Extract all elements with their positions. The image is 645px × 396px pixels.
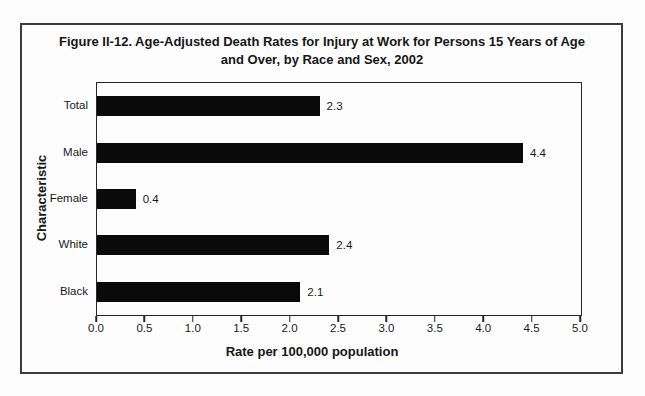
category-label: Male <box>16 146 88 158</box>
x-tick-mark <box>386 316 388 322</box>
bar <box>97 282 300 302</box>
bar-value-label: 0.4 <box>143 193 159 205</box>
bar-value-label: 2.4 <box>336 239 352 251</box>
chart-title: Figure II-12. Age-Adjusted Death Rates f… <box>52 33 592 69</box>
bar <box>97 189 136 209</box>
page: Figure II-12. Age-Adjusted Death Rates f… <box>0 0 645 396</box>
bar-value-label: 2.3 <box>327 100 343 112</box>
category-label: Black <box>16 285 88 297</box>
x-axis-label: Rate per 100,000 population <box>226 344 399 359</box>
x-tick-mark <box>531 316 533 322</box>
bar-value-label: 2.1 <box>307 286 323 298</box>
x-tick-mark <box>579 316 581 322</box>
x-tick-mark <box>482 316 484 322</box>
x-tick-mark <box>240 316 242 322</box>
x-tick-mark <box>95 316 97 322</box>
x-tick-label: 2.5 <box>330 322 346 334</box>
x-tick-label: 3.0 <box>378 322 394 334</box>
x-tick-label: 4.5 <box>524 322 540 334</box>
x-tick-mark <box>434 316 436 322</box>
x-tick-mark <box>289 316 291 322</box>
x-tick-label: 1.5 <box>233 322 249 334</box>
x-tick-mark <box>144 316 146 322</box>
bar <box>97 235 329 255</box>
x-tick-label: 5.0 <box>572 322 588 334</box>
x-tick-label: 0.5 <box>136 322 152 334</box>
category-label: Total <box>16 99 88 111</box>
x-tick-label: 3.5 <box>427 322 443 334</box>
category-label: Female <box>16 192 88 204</box>
x-tick-mark <box>337 316 339 322</box>
category-labels: TotalMaleFemaleWhiteBlack <box>16 82 88 314</box>
x-tick-label: 1.0 <box>185 322 201 334</box>
x-tick-label: 4.0 <box>475 322 491 334</box>
plot-area: 2.34.40.42.42.1 <box>96 82 582 316</box>
x-tick-label: 2.0 <box>282 322 298 334</box>
x-tick-label: 0.0 <box>88 322 104 334</box>
bar <box>97 96 320 116</box>
x-tick-mark <box>192 316 194 322</box>
bar <box>97 143 523 163</box>
category-label: White <box>16 238 88 250</box>
bar-value-label: 4.4 <box>530 147 546 159</box>
